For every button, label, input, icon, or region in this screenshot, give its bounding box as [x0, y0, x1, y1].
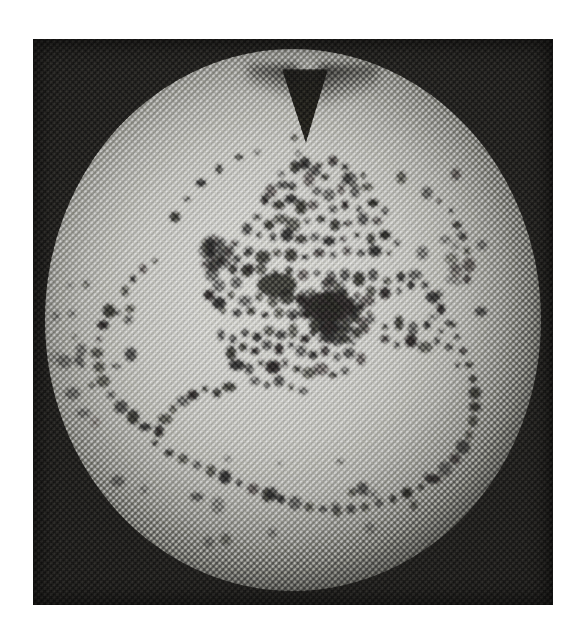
- halftone-photo-plate: [33, 39, 553, 605]
- figure-page: [0, 0, 581, 632]
- defect-scatter-layer: [33, 39, 553, 605]
- defect-scatter-svg: [33, 39, 553, 605]
